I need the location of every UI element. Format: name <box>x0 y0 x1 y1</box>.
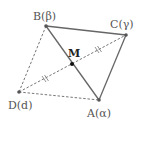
point-d <box>17 90 21 94</box>
point-a <box>97 98 101 102</box>
parallelogram-diagram: B(β) C(γ) M D(d) A(α) <box>0 0 141 141</box>
label-a: A(α) <box>86 107 111 120</box>
tick-mark-mc <box>95 46 102 53</box>
label-m: M <box>68 47 80 60</box>
label-b: B(β) <box>33 10 56 23</box>
segment-ca <box>99 35 126 100</box>
label-d: D(d) <box>8 99 32 112</box>
tick-mark-dm <box>42 75 49 82</box>
point-c <box>124 33 128 37</box>
point-m <box>70 62 74 66</box>
point-b <box>44 24 48 28</box>
label-c: C(γ) <box>110 18 134 31</box>
segment-bd <box>19 26 46 92</box>
